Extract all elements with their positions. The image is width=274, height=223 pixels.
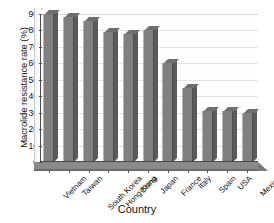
x-tick-mark [49,170,50,173]
chart-floor-tip [258,162,268,171]
bar-top-face [45,10,60,14]
bar-front-face [162,63,173,162]
x-tick-mark [207,170,208,173]
bar [43,14,54,162]
bar [143,30,154,162]
y-tick-mark [39,63,42,64]
bar-front-face [202,111,213,162]
y-tick-mark [39,162,42,163]
bar-front-face [182,88,193,162]
y-tick-mark [39,14,42,15]
bar-front-face [103,32,114,162]
bar-side-face [114,28,118,162]
bar-front-face [123,34,134,162]
y-tick-mark [39,47,42,48]
chart-floor-edge [34,169,258,171]
x-tick-mark [247,170,248,173]
bar-series [40,14,258,162]
x-tick-mark [128,170,129,173]
bar-side-face [193,84,197,162]
x-axis-line [40,161,258,162]
x-tick-mark [188,170,189,173]
chart-floor-face [34,162,258,169]
bar-front-face [242,113,253,162]
bar [202,111,213,162]
bar-top-face [164,59,179,63]
bar-side-face [74,13,78,162]
bar [182,88,193,162]
bar-front-face [222,111,233,162]
bar-side-face [134,30,138,162]
x-tick-mark [168,170,169,173]
x-tick-mark [69,170,70,173]
bar [242,113,253,162]
bar [162,63,173,162]
y-tick-mark [39,96,42,97]
bar-chart: Macrolide resistance rate (%) 0102030405… [0,0,274,223]
bar-front-face [143,30,154,162]
y-tick-mark [39,80,42,81]
bar-side-face [94,17,98,162]
bar-side-face [173,59,177,162]
y-tick-mark [39,113,42,114]
bar [63,17,74,162]
y-tick-mark [39,146,42,147]
bar-side-face [154,26,158,162]
bar-side-face [233,107,237,162]
x-tick-mark [148,170,149,173]
x-tick-mark [108,170,109,173]
bar [83,21,94,162]
bar [123,34,134,162]
bar-side-face [253,109,257,162]
bar [222,111,233,162]
y-tick-mark [39,30,42,31]
bar-side-face [54,10,58,162]
bar-front-face [63,17,74,162]
bar [103,32,114,162]
x-tick-mark [227,170,228,173]
bar-side-face [213,107,217,162]
y-tick-mark [39,129,42,130]
bar-front-face [43,14,54,162]
x-tick-label: Mexico [259,174,274,198]
x-tick-label: Japan [158,174,180,196]
x-tick-mark [89,170,90,173]
x-tick-label: USA [236,174,254,192]
x-axis-title: Country [0,203,274,215]
bar-front-face [83,21,94,162]
